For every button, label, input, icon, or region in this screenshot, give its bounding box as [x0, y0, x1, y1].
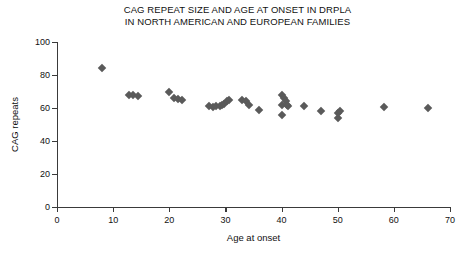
x-tick-mark — [450, 207, 451, 212]
x-tick-label: 30 — [220, 215, 230, 225]
y-tick-label: 80 — [40, 70, 50, 80]
y-tick-label: 0 — [45, 202, 50, 212]
x-tick-label: 50 — [333, 215, 343, 225]
scatter-chart-figure: CAG REPEAT SIZE AND AGE AT ONSET IN DRPL… — [0, 0, 475, 267]
x-tick-mark — [113, 207, 114, 212]
data-point — [423, 104, 431, 112]
data-point — [300, 102, 308, 110]
x-tick-mark — [282, 207, 283, 212]
x-tick-mark — [225, 207, 226, 212]
y-tick-label: 40 — [40, 136, 50, 146]
y-tick-label: 20 — [40, 169, 50, 179]
x-tick-label: 70 — [445, 215, 455, 225]
x-tick-label: 20 — [164, 215, 174, 225]
y-tick-mark — [52, 108, 57, 109]
y-tick-mark — [52, 75, 57, 76]
chart-title: CAG REPEAT SIZE AND AGE AT ONSET IN DRPL… — [0, 4, 475, 28]
x-tick-label: 40 — [277, 215, 287, 225]
x-tick-mark — [394, 207, 395, 212]
data-point — [255, 105, 263, 113]
x-tick-label: 0 — [54, 215, 59, 225]
x-tick-mark — [338, 207, 339, 212]
x-axis-line — [57, 207, 450, 208]
y-tick-mark — [52, 42, 57, 43]
data-point — [317, 107, 325, 115]
x-tick-label: 60 — [389, 215, 399, 225]
data-point — [98, 64, 106, 72]
y-tick-mark — [52, 141, 57, 142]
data-point — [277, 110, 285, 118]
x-tick-mark — [57, 207, 58, 212]
y-tick-mark — [52, 174, 57, 175]
x-tick-label: 10 — [108, 215, 118, 225]
x-tick-mark — [169, 207, 170, 212]
plot-area: 020406080100 010203040506070 — [57, 42, 450, 207]
data-point — [380, 103, 388, 111]
x-axis-title: Age at onset — [57, 232, 450, 243]
y-axis-title: CAG repeats — [8, 42, 22, 207]
chart-title-line-2: IN NORTH AMERICAN AND EUROPEAN FAMILIES — [0, 16, 475, 28]
data-point — [284, 102, 292, 110]
y-tick-label: 60 — [40, 103, 50, 113]
chart-title-line-1: CAG REPEAT SIZE AND AGE AT ONSET IN DRPL… — [0, 4, 475, 16]
y-tick-label: 100 — [35, 37, 50, 47]
y-axis-line — [57, 42, 58, 207]
